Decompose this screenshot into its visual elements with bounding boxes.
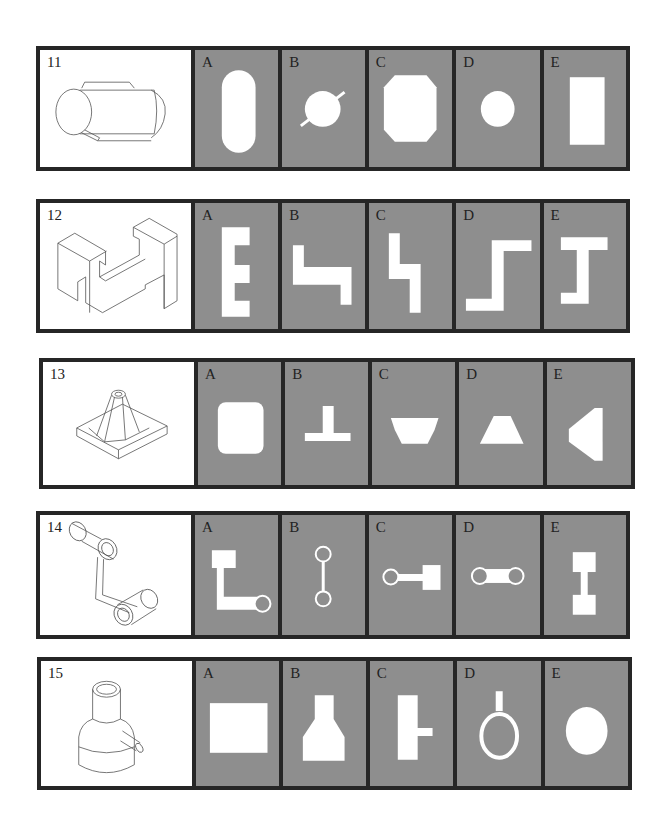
option-A[interactable]: A [196, 661, 279, 786]
bottle-shape-icon [283, 661, 365, 786]
l-shape-with-ring-icon [195, 515, 278, 635]
option-C[interactable]: C [369, 203, 452, 329]
rectangle-icon [196, 661, 279, 786]
problem-row-14: 14 A B [36, 511, 630, 639]
z-step-icon [456, 203, 539, 329]
option-E[interactable]: E [545, 661, 628, 786]
option-D[interactable]: D [456, 50, 539, 167]
option-E[interactable]: E [547, 362, 631, 485]
option-E[interactable]: E [544, 203, 626, 329]
option-C[interactable]: C [369, 50, 452, 167]
problem-row-15: 15 A B C D [37, 657, 632, 790]
vertical-stadium-icon [195, 50, 278, 167]
left-trapezoid-icon [547, 362, 631, 485]
vertical-rectangle-icon [544, 50, 626, 167]
isometric-view: 15 [41, 661, 192, 786]
isometric-view: 14 [40, 515, 191, 635]
octagon-icon [369, 50, 452, 167]
horizontal-dumbbell-icon [456, 515, 539, 635]
option-A[interactable]: A [195, 515, 278, 635]
option-C[interactable]: C [370, 661, 453, 786]
option-B[interactable]: B [282, 203, 364, 329]
option-A[interactable]: A [198, 362, 281, 485]
option-B[interactable]: B [285, 362, 367, 485]
i-beam-icon [544, 203, 626, 329]
option-C[interactable]: C [369, 515, 452, 635]
problem-row-11: 11 A B C D E [36, 46, 630, 171]
option-D[interactable]: D [459, 362, 542, 485]
option-A[interactable]: A [195, 203, 278, 329]
inverted-t-icon [285, 362, 367, 485]
option-D[interactable]: D [457, 661, 540, 786]
isometric-view: 12 [40, 203, 191, 329]
ring-bar-square-icon [369, 515, 452, 635]
option-D[interactable]: D [456, 515, 539, 635]
isometric-view: 13 [43, 362, 194, 485]
e-shape-icon [195, 203, 278, 329]
flask-drawing-icon [41, 661, 192, 786]
circle-icon [456, 50, 539, 167]
linked-cylinders-drawing-icon [40, 515, 191, 635]
vertical-dumbbell-icon [282, 515, 364, 635]
problem-row-12: 12 A B C D E [36, 199, 630, 333]
problem-row-13: 13 A B C D E [39, 358, 635, 489]
option-C[interactable]: C [372, 362, 455, 485]
option-B[interactable]: B [283, 661, 365, 786]
rectangle-with-tab-icon [370, 661, 453, 786]
vertical-step-icon [369, 203, 452, 329]
trapezoid-icon [459, 362, 542, 485]
option-D[interactable]: D [456, 203, 539, 329]
option-A[interactable]: A [195, 50, 278, 167]
inverted-trapezoid-icon [372, 362, 455, 485]
ring-with-stem-icon [457, 661, 540, 786]
ellipse-icon [545, 661, 628, 786]
cylinder-drawing-icon [40, 50, 191, 167]
rounded-square-icon [198, 362, 281, 485]
option-E[interactable]: E [544, 515, 626, 635]
vertical-dumbbell-squares-icon [544, 515, 626, 635]
option-B[interactable]: B [282, 515, 364, 635]
isometric-view: 11 [40, 50, 191, 167]
h-block-drawing-icon [40, 203, 191, 329]
option-B[interactable]: B [282, 50, 364, 167]
option-E[interactable]: E [544, 50, 626, 167]
circle-with-line-icon [282, 50, 364, 167]
pyramid-base-drawing-icon [43, 362, 194, 485]
horizontal-step-icon [282, 203, 364, 329]
